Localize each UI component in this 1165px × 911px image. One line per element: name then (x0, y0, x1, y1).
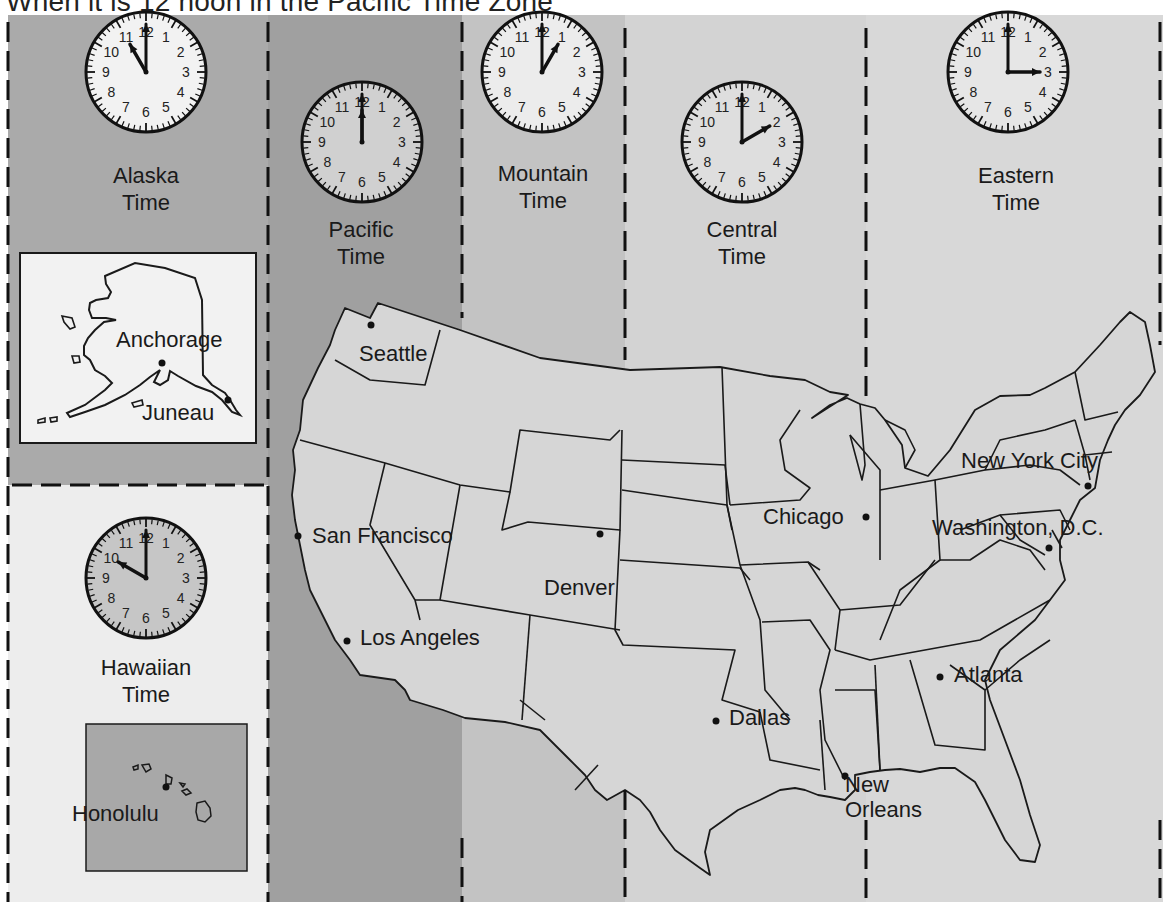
svg-text:8: 8 (503, 84, 511, 100)
mountain-clock-icon: 121234567891011 (482, 12, 602, 132)
svg-text:9: 9 (318, 134, 326, 150)
svg-text:7: 7 (984, 99, 992, 115)
svg-text:9: 9 (964, 64, 972, 80)
svg-text:11: 11 (515, 29, 530, 45)
svg-text:11: 11 (119, 29, 134, 45)
svg-text:8: 8 (703, 154, 711, 170)
san-francisco-dot (295, 533, 302, 540)
hawaii-clock-icon: 121234567891011 (86, 518, 206, 638)
svg-text:6: 6 (538, 104, 546, 120)
city-label-honolulu: Honolulu (72, 802, 159, 826)
mountain-zone-name: Mountain (475, 160, 611, 187)
anchorage-dot (159, 360, 166, 367)
svg-text:1: 1 (162, 535, 170, 551)
svg-text:2: 2 (573, 44, 581, 60)
juneau-dot (225, 397, 232, 404)
svg-text:7: 7 (718, 169, 726, 185)
svg-text:5: 5 (162, 99, 170, 115)
svg-text:6: 6 (358, 174, 366, 190)
svg-text:11: 11 (981, 29, 996, 45)
svg-text:5: 5 (162, 605, 170, 621)
city-label-atlanta: Atlanta (954, 663, 1023, 687)
svg-text:1: 1 (162, 29, 170, 45)
svg-text:10: 10 (700, 114, 716, 130)
svg-text:8: 8 (969, 84, 977, 100)
pacific-zone-name: Pacific (303, 216, 419, 243)
alaska-clock-icon: 121234567891011 (86, 12, 206, 132)
svg-text:5: 5 (1024, 99, 1032, 115)
city-label-anchorage: Anchorage (116, 328, 222, 352)
svg-text:1: 1 (1024, 29, 1032, 45)
svg-text:1: 1 (378, 99, 386, 115)
pacific-zone-label: Pacific Time (303, 216, 419, 270)
svg-text:4: 4 (1039, 84, 1047, 100)
eastern-zone-label: Eastern Time (958, 162, 1074, 216)
svg-text:7: 7 (518, 99, 526, 115)
svg-text:2: 2 (393, 114, 401, 130)
eastern-zone-name: Eastern (958, 162, 1074, 189)
central-zone-label: Central Time (684, 216, 800, 270)
svg-text:7: 7 (122, 99, 130, 115)
central-zone-suffix: Time (684, 243, 800, 270)
svg-text:4: 4 (177, 84, 185, 100)
svg-text:11: 11 (119, 535, 134, 551)
svg-text:7: 7 (122, 605, 130, 621)
hawaii-inset (86, 724, 247, 871)
city-label-denver: Denver (544, 576, 615, 600)
svg-text:6: 6 (738, 174, 746, 190)
city-label-san-francisco: San Francisco (312, 524, 453, 548)
new-york-dot (1085, 483, 1092, 490)
hawaii-zone-name: Hawaiian (88, 654, 204, 681)
denver-dot (597, 531, 604, 538)
svg-text:3: 3 (578, 64, 586, 80)
city-label-juneau: Juneau (142, 401, 214, 425)
svg-text:10: 10 (500, 44, 516, 60)
svg-text:5: 5 (558, 99, 566, 115)
svg-text:4: 4 (177, 590, 185, 606)
svg-text:6: 6 (142, 104, 150, 120)
alaska-zone-suffix: Time (88, 189, 204, 216)
svg-text:8: 8 (107, 590, 115, 606)
mountain-zone-suffix: Time (475, 187, 611, 214)
svg-text:4: 4 (773, 154, 781, 170)
svg-text:5: 5 (758, 169, 766, 185)
central-zone-name: Central (684, 216, 800, 243)
city-label-new-orleans: New Orleans (845, 772, 922, 822)
svg-text:7: 7 (338, 169, 346, 185)
city-label-dallas: Dallas (729, 706, 790, 730)
svg-text:8: 8 (323, 154, 331, 170)
svg-text:9: 9 (498, 64, 506, 80)
svg-text:9: 9 (698, 134, 706, 150)
svg-text:3: 3 (182, 570, 190, 586)
city-label-washington: Washington, D.C. (932, 516, 1104, 540)
central-clock-icon: 121234567891011 (682, 82, 802, 202)
atlanta-dot (937, 674, 944, 681)
svg-text:6: 6 (142, 610, 150, 626)
svg-text:4: 4 (393, 154, 401, 170)
svg-text:3: 3 (1044, 64, 1052, 80)
svg-text:10: 10 (104, 550, 120, 566)
seattle-dot (368, 322, 375, 329)
svg-text:2: 2 (1039, 44, 1047, 60)
honolulu-dot (163, 784, 170, 791)
svg-text:3: 3 (778, 134, 786, 150)
city-label-new-york: New York City (961, 449, 1098, 473)
svg-text:11: 11 (335, 99, 350, 115)
svg-text:11: 11 (715, 99, 730, 115)
city-label-seattle: Seattle (359, 342, 428, 366)
pacific-zone-suffix: Time (303, 243, 419, 270)
city-label-los-angeles: Los Angeles (360, 626, 480, 650)
alaska-zone-label: Alaska Time (88, 162, 204, 216)
alaska-zone-name: Alaska (88, 162, 204, 189)
hawaii-zone-label: Hawaiian Time (88, 654, 204, 708)
svg-text:10: 10 (966, 44, 982, 60)
svg-text:9: 9 (102, 64, 110, 80)
chicago-dot (863, 514, 870, 521)
svg-text:10: 10 (320, 114, 336, 130)
svg-text:3: 3 (182, 64, 190, 80)
svg-text:10: 10 (104, 44, 120, 60)
svg-text:2: 2 (177, 44, 185, 60)
svg-text:6: 6 (1004, 104, 1012, 120)
svg-text:5: 5 (378, 169, 386, 185)
eastern-clock-icon: 121234567891011 (948, 12, 1068, 132)
